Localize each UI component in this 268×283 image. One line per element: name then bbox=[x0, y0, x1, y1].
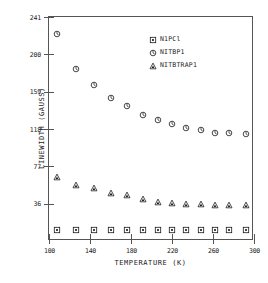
data-point-triangle bbox=[140, 196, 147, 203]
data-point-triangle bbox=[169, 199, 176, 206]
data-point-square bbox=[107, 227, 114, 234]
data-point-square bbox=[140, 227, 147, 234]
x-tick-label: 140 bbox=[85, 248, 96, 255]
data-point-square bbox=[72, 227, 79, 234]
data-point-square bbox=[54, 227, 61, 234]
y-tick-label: 241 bbox=[30, 14, 41, 21]
legend-item: N1PCl bbox=[148, 33, 197, 46]
legend: N1PClNITBP1NITBTRAP1 bbox=[148, 33, 197, 72]
x-tick-label: 100 bbox=[44, 248, 55, 255]
x-tick-label: 300 bbox=[249, 248, 260, 255]
data-point-circle bbox=[242, 131, 249, 138]
legend-label: NITBP1 bbox=[160, 49, 185, 56]
data-point-circle bbox=[72, 65, 79, 72]
x-tick: 300 bbox=[254, 234, 255, 244]
square-marker-icon bbox=[148, 35, 160, 44]
data-point-triangle bbox=[226, 201, 233, 208]
x-tick-label: 260 bbox=[208, 248, 219, 255]
data-point-circle bbox=[91, 82, 98, 89]
circle-marker-icon bbox=[148, 48, 160, 57]
y-tick-label: 200 bbox=[30, 52, 41, 59]
data-point-triangle bbox=[154, 198, 161, 205]
data-point-circle bbox=[197, 126, 204, 133]
data-point-square bbox=[183, 227, 190, 234]
data-point-triangle bbox=[197, 200, 204, 207]
data-point-circle bbox=[140, 112, 147, 119]
data-point-circle bbox=[107, 95, 114, 102]
data-point-square bbox=[169, 227, 176, 234]
data-point-square bbox=[154, 227, 161, 234]
data-point-square bbox=[242, 227, 249, 234]
data-point-circle bbox=[183, 125, 190, 132]
data-point-circle bbox=[169, 120, 176, 127]
data-point-circle bbox=[212, 129, 219, 136]
triangle-marker-icon bbox=[148, 61, 160, 70]
data-point-square bbox=[197, 227, 204, 234]
y-axis-title: LINEWIDTH (GAUSS) bbox=[39, 87, 46, 169]
data-point-square bbox=[91, 227, 98, 234]
data-point-square bbox=[123, 227, 130, 234]
x-tick-label: 220 bbox=[167, 248, 178, 255]
y-tick-label: 36 bbox=[34, 201, 41, 208]
chart-figure: 3677118159200241 100140180220260300 LINE… bbox=[0, 0, 268, 283]
data-point-circle bbox=[226, 129, 233, 136]
data-point-square bbox=[212, 227, 219, 234]
legend-label: NITBTRAP1 bbox=[160, 62, 197, 69]
data-point-triangle bbox=[212, 201, 219, 208]
x-tick-label: 180 bbox=[126, 248, 137, 255]
data-point-triangle bbox=[183, 200, 190, 207]
data-point-circle bbox=[123, 103, 130, 110]
legend-item: NITBTRAP1 bbox=[148, 59, 197, 72]
data-point-triangle bbox=[54, 174, 61, 181]
data-point-triangle bbox=[91, 185, 98, 192]
data-point-triangle bbox=[123, 192, 130, 199]
x-axis-title: TEMPERATURE (K) bbox=[48, 260, 253, 267]
legend-item: NITBP1 bbox=[148, 46, 197, 59]
data-point-triangle bbox=[107, 189, 114, 196]
data-point-circle bbox=[54, 31, 61, 38]
legend-label: N1PCl bbox=[160, 36, 181, 43]
data-point-triangle bbox=[242, 201, 249, 208]
data-point-circle bbox=[154, 116, 161, 123]
data-point-triangle bbox=[72, 181, 79, 188]
data-point-square bbox=[226, 227, 233, 234]
